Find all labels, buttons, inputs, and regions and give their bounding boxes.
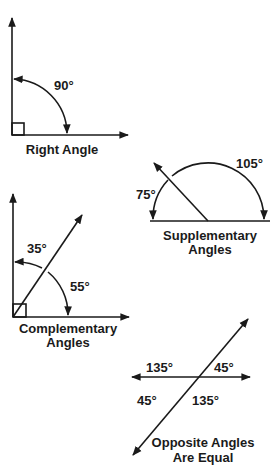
- angles-diagram: 90° Right Angle 105° 75° Supplementary A…: [0, 0, 275, 473]
- caption-complementary-2: Angles: [46, 335, 89, 350]
- caption-opposite-1: Opposite Angles: [152, 435, 255, 450]
- right-angle-figure: 90° Right Angle: [12, 18, 128, 157]
- caption-complementary-1: Complementary: [19, 321, 118, 336]
- opposite-angles-figure: 135° 45° 45° 135° Opposite Angles Are Eq…: [132, 319, 254, 465]
- angle-label-105: 105°: [236, 156, 263, 171]
- angle-label-135-top: 135°: [146, 360, 173, 375]
- angle-label-55: 55°: [70, 279, 90, 294]
- complementary-angles-figure: 35° 55° Complementary Angles: [13, 194, 129, 350]
- angle-label-90: 90°: [54, 78, 74, 93]
- arc-35: [15, 262, 42, 268]
- arc-105: [172, 163, 264, 219]
- supplementary-angles-figure: 105° 75° Supplementary Angles: [136, 156, 270, 257]
- angle-label-45-top: 45°: [214, 360, 234, 375]
- angle-label-135-bottom: 135°: [192, 393, 219, 408]
- caption-right-angle: Right Angle: [26, 142, 98, 157]
- diagonal-ray: [13, 215, 82, 317]
- caption-supplementary-1: Supplementary: [163, 228, 258, 243]
- dividing-ray: [154, 163, 208, 221]
- caption-opposite-2: Are Equal: [173, 450, 234, 465]
- caption-supplementary-2: Angles: [188, 242, 231, 257]
- angle-label-35: 35°: [27, 241, 47, 256]
- angle-label-45-bottom: 45°: [137, 393, 157, 408]
- angle-label-75: 75°: [136, 187, 156, 202]
- right-angle-square: [12, 123, 24, 135]
- arc-55: [48, 272, 68, 315]
